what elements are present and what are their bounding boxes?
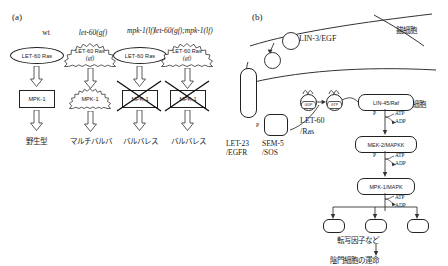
arrow-ras-to-mpk-let60gf	[84, 68, 97, 89]
anchor-cell-label: 錨細胞	[396, 24, 417, 35]
tf-oval-3	[407, 219, 429, 233]
arrow-mpk-to-outcome-mpk1lf	[133, 110, 146, 131]
tf-oval-1	[323, 219, 345, 233]
ligand-circle	[282, 32, 300, 50]
ras-node-double: LET-60 Ras (gf)	[157, 43, 217, 67]
arrow-mpk-to-outcome-wt	[30, 110, 43, 131]
arrow-ras-to-mpk-wt	[30, 66, 43, 87]
mpk-label-let60gf: MPK-1	[68, 88, 112, 110]
mpk-node-wt: MPK-1	[19, 90, 55, 108]
block-cross-mpk1lf	[116, 80, 162, 112]
ras-gf-suffix-let60gf: (gf)	[86, 55, 95, 62]
arrow-mpk-to-outcome-double	[181, 110, 194, 131]
panel-a-label: (a)	[12, 12, 22, 22]
mek-phospho-label: P	[373, 110, 376, 116]
adp-label-mek: ADP	[395, 160, 406, 166]
tf-oval-2	[365, 219, 387, 233]
ras-node-wt: LET-60 Ras	[10, 47, 64, 64]
arrow-mpk-to-outcome-let60gf	[84, 111, 97, 132]
adp-label-raf: ADP	[395, 118, 406, 124]
ras-gf-suffix-double: (gf)	[183, 55, 192, 62]
outcome-double: バルバレス	[160, 135, 216, 146]
atp-label-mek: ATP	[395, 152, 405, 158]
block-cross-double	[164, 80, 210, 112]
ras-label-let60gf: LET-60 Ras	[75, 48, 105, 55]
mpk-node-let60gf: MPK-1	[68, 88, 112, 110]
figure-root: (a) wt let-60(gf) mpk-1(lf) let-60(gf);m…	[0, 0, 448, 266]
ras-label-line1: LET-60	[300, 116, 325, 125]
mpk-phospho-label: P	[373, 152, 376, 158]
outcome-wt: 野生型	[6, 135, 66, 146]
atp-label-mpk: ATP	[395, 194, 405, 200]
atp-label-raf: ATP	[395, 110, 405, 116]
ligand-label: LIN-3/EGF	[299, 34, 336, 43]
cell-fate-label: 陰門細胞の運命	[330, 254, 379, 265]
ras-label-double: LET-60 Ras	[172, 48, 202, 55]
ras-node-let60gf: LET-60 Ras (gf)	[60, 43, 120, 67]
ras-label-line2: /Ras	[300, 127, 314, 136]
